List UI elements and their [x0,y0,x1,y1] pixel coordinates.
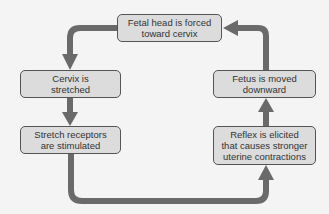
node-text: Cervix is [51,73,90,84]
node-fetus-moved: Fetus is moveddownward [213,70,316,98]
node-stretch-receptors: Stretch receptorsare stimulated [20,126,121,154]
node-text: Fetal head is forced [128,17,211,28]
node-text: are stimulated [34,140,106,151]
node-text: downward [232,84,296,95]
node-text: that causes stronger [221,140,307,151]
node-text: uterine contractions [221,151,307,162]
node-text: toward cervix [128,28,211,39]
arrow-fetus-to-head [238,28,266,70]
node-fetal-head-forced: Fetal head is forcedtoward cervix [117,14,222,42]
arrow-top-to-cervix [70,28,118,54]
node-text: stretched [51,84,90,95]
node-text: Stretch receptors [34,129,106,140]
node-text: Reflex is elicited [221,129,307,140]
node-text: Fetus is moved [232,73,296,84]
node-reflex-elicited: Reflex is elicitedthat causes strongerut… [213,126,316,165]
node-cervix-stretched: Cervix isstretched [20,70,121,98]
